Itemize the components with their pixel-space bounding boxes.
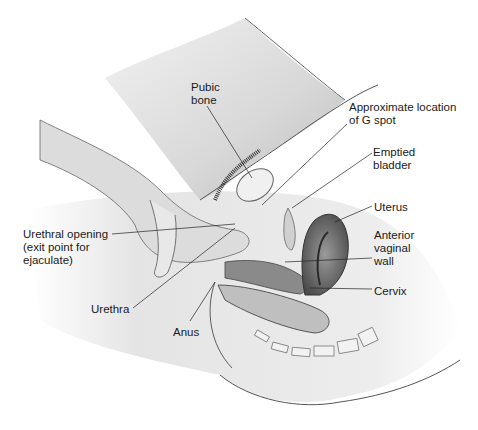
label-urethral-opening: Urethral opening (exit point for ejacula… xyxy=(23,228,108,267)
thigh xyxy=(105,18,378,200)
label-pubic-bone: Pubic bone xyxy=(191,81,220,107)
label-anus: Anus xyxy=(173,326,199,339)
label-g-spot: Approximate location of G spot xyxy=(349,101,456,127)
label-urethra: Urethra xyxy=(91,303,129,316)
label-anterior-vaginal-wall: Anterior vaginal wall xyxy=(374,229,414,268)
anatomy-illustration xyxy=(0,0,478,430)
label-emptied-bladder: Emptied bladder xyxy=(373,146,415,172)
label-uterus: Uterus xyxy=(374,201,408,214)
label-cervix: Cervix xyxy=(374,285,407,298)
